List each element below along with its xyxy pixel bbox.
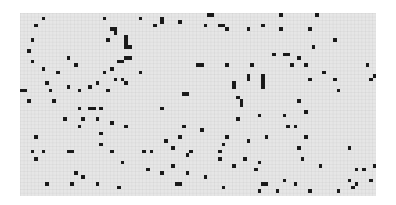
live-cell[interactable] xyxy=(178,135,182,139)
live-cell[interactable] xyxy=(247,139,251,143)
live-cell[interactable] xyxy=(283,114,287,118)
live-cell[interactable] xyxy=(153,24,157,28)
live-cell[interactable] xyxy=(178,20,182,24)
live-cell[interactable] xyxy=(304,63,308,67)
live-cell[interactable] xyxy=(294,125,298,129)
live-cell[interactable] xyxy=(96,81,100,85)
live-cell[interactable] xyxy=(337,89,341,93)
live-cell[interactable] xyxy=(225,27,229,31)
live-cell[interactable] xyxy=(142,150,146,154)
live-cell[interactable] xyxy=(200,63,204,67)
live-cell[interactable] xyxy=(279,13,283,17)
live-cell[interactable] xyxy=(24,89,28,93)
live-cell[interactable] xyxy=(355,168,359,172)
live-cell[interactable] xyxy=(114,31,118,35)
game-board[interactable] xyxy=(20,13,376,196)
live-cell[interactable] xyxy=(247,27,251,31)
live-cell[interactable] xyxy=(81,175,85,179)
live-cell[interactable] xyxy=(189,150,193,154)
live-cell[interactable] xyxy=(240,103,244,107)
live-cell[interactable] xyxy=(31,38,35,42)
live-cell[interactable] xyxy=(139,17,143,21)
live-cell[interactable] xyxy=(297,146,301,150)
live-cell[interactable] xyxy=(67,56,71,60)
live-cell[interactable] xyxy=(70,150,74,154)
live-cell[interactable] xyxy=(150,150,154,154)
live-cell[interactable] xyxy=(171,164,175,168)
live-cell[interactable] xyxy=(258,114,262,118)
live-cell[interactable] xyxy=(301,157,305,161)
live-cell[interactable] xyxy=(297,99,301,103)
live-cell[interactable] xyxy=(106,38,110,42)
live-cell[interactable] xyxy=(265,135,269,139)
live-cell[interactable] xyxy=(63,117,67,121)
live-cell[interactable] xyxy=(286,53,290,57)
live-cell[interactable] xyxy=(243,157,247,161)
live-cell[interactable] xyxy=(110,67,114,71)
live-cell[interactable] xyxy=(211,13,215,17)
live-cell[interactable] xyxy=(124,81,128,85)
live-cell[interactable] xyxy=(186,92,190,96)
live-cell[interactable] xyxy=(322,71,326,75)
live-cell[interactable] xyxy=(78,107,82,111)
live-cell[interactable] xyxy=(294,182,298,186)
live-cell[interactable] xyxy=(283,179,287,183)
live-cell[interactable] xyxy=(78,89,82,93)
live-cell[interactable] xyxy=(333,38,337,42)
live-cell[interactable] xyxy=(250,63,254,67)
live-cell[interactable] xyxy=(110,150,114,154)
live-cell[interactable] xyxy=(67,85,71,89)
live-cell[interactable] xyxy=(31,150,35,154)
live-cell[interactable] xyxy=(319,164,323,168)
live-cell[interactable] xyxy=(45,182,49,186)
live-cell[interactable] xyxy=(171,146,175,150)
live-cell[interactable] xyxy=(106,89,110,93)
live-cell[interactable] xyxy=(261,85,265,89)
live-cell[interactable] xyxy=(74,171,78,175)
live-cell[interactable] xyxy=(304,135,308,139)
live-cell[interactable] xyxy=(348,179,352,183)
live-cell[interactable] xyxy=(283,53,287,57)
live-cell[interactable] xyxy=(175,182,179,186)
live-cell[interactable] xyxy=(78,125,82,129)
live-cell[interactable] xyxy=(92,107,96,111)
live-cell[interactable] xyxy=(247,78,251,82)
live-cell[interactable] xyxy=(88,85,92,89)
live-cell[interactable] xyxy=(373,164,377,168)
live-cell[interactable] xyxy=(232,85,236,89)
live-cell[interactable] xyxy=(160,107,164,111)
live-cell[interactable] xyxy=(258,189,262,193)
live-cell[interactable] xyxy=(160,171,164,175)
live-cell[interactable] xyxy=(337,189,341,193)
live-cell[interactable] xyxy=(146,168,150,172)
live-cell[interactable] xyxy=(96,117,100,121)
live-cell[interactable] xyxy=(117,186,121,190)
live-cell[interactable] xyxy=(369,78,373,82)
live-cell[interactable] xyxy=(45,81,49,85)
live-cell[interactable] xyxy=(366,63,370,67)
live-cell[interactable] xyxy=(128,56,132,60)
live-cell[interactable] xyxy=(304,110,308,114)
live-cell[interactable] xyxy=(218,157,222,161)
live-cell[interactable] xyxy=(265,182,269,186)
live-cell[interactable] xyxy=(308,189,312,193)
live-cell[interactable] xyxy=(186,153,190,157)
live-cell[interactable] xyxy=(315,13,319,17)
live-cell[interactable] xyxy=(222,186,226,190)
live-cell[interactable] xyxy=(34,157,38,161)
live-cell[interactable] xyxy=(261,24,265,28)
live-cell[interactable] xyxy=(222,143,226,147)
live-cell[interactable] xyxy=(186,171,190,175)
live-cell[interactable] xyxy=(103,71,107,75)
live-cell[interactable] xyxy=(99,107,103,111)
live-cell[interactable] xyxy=(128,45,132,49)
live-cell[interactable] xyxy=(139,71,143,75)
live-cell[interactable] xyxy=(99,132,103,136)
live-cell[interactable] xyxy=(308,27,312,31)
live-cell[interactable] xyxy=(254,168,258,172)
live-cell[interactable] xyxy=(110,121,114,125)
live-cell[interactable] xyxy=(27,49,31,53)
live-cell[interactable] xyxy=(99,143,103,147)
live-cell[interactable] xyxy=(74,63,78,67)
live-cell[interactable] xyxy=(290,63,294,67)
